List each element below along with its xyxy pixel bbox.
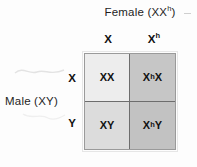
column-header-allele-1-base: X — [148, 33, 156, 45]
row-header-allele-0: X — [62, 69, 82, 87]
row-header-allele-1-base: Y — [68, 117, 76, 129]
scan-squiggle-artifact-top — [14, 64, 66, 78]
punnett-cell-row1-col1-suffix: Y — [155, 119, 162, 131]
punnett-cell-row1-col1: XhY — [130, 102, 175, 150]
punnett-cell-row1-col0: XY — [85, 102, 130, 150]
punnett-cell-row0-col1: XhX — [130, 54, 175, 102]
column-header-allele-0-base: X — [104, 33, 112, 45]
punnett-cell-row0-col1-suffix: X — [155, 71, 162, 83]
punnett-square-figure: Female (XXh) X Xh Male (XY) X Y XX XhX X… — [0, 0, 197, 167]
column-header-allele-1: Xh — [139, 29, 169, 50]
female-parent-label-suffix: ) — [172, 6, 176, 18]
punnett-cell-row0-col0: XX — [85, 54, 130, 102]
male-parent-label: Male (XY) — [5, 95, 58, 107]
row-header-allele-1: Y — [62, 114, 82, 132]
header-rule-artifact — [184, 13, 191, 14]
punnett-cell-row0-col1-prefix: X — [143, 71, 150, 83]
punnett-cell-row1-col1-prefix: X — [143, 119, 150, 131]
column-header-allele-1-superscript: h — [156, 31, 161, 40]
scan-squiggle-artifact-bottom — [22, 110, 66, 123]
column-header-allele-0: X — [93, 29, 123, 50]
female-parent-label: Female (XXh) — [88, 6, 192, 18]
female-parent-label-base: Female (XX — [104, 6, 167, 18]
punnett-grid: XX XhX XY XhY — [84, 53, 176, 150]
row-header-allele-0-base: X — [68, 72, 76, 84]
punnett-cell-row1-col0-suffix: XY — [100, 119, 115, 131]
punnett-cell-row0-col0-suffix: XX — [100, 71, 115, 83]
